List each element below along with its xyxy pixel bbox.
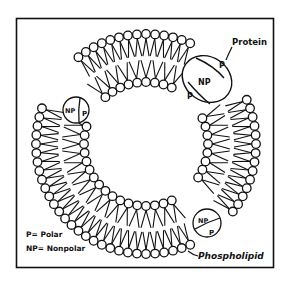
lipid-head-inner	[116, 83, 125, 92]
lipid-head-outer	[35, 167, 44, 176]
lipid-head-inner	[80, 131, 89, 140]
lipid-head-inner	[198, 114, 207, 123]
lipid-tail	[62, 151, 80, 153]
lipid-tail	[153, 210, 155, 228]
protein-region-polar: P	[219, 61, 225, 70]
lipid-tail	[234, 135, 251, 140]
lipid-head-outer	[248, 113, 257, 122]
liposome-diagram: P NP P NP P NP P Protein Phospholipid P=…	[0, 0, 290, 284]
lipid-tail	[155, 231, 157, 249]
lipid-head-outer	[142, 30, 151, 39]
lipid-head-inner	[194, 173, 203, 182]
lipid-tail	[157, 231, 163, 248]
lipid-head-inner	[201, 122, 210, 131]
lipid-tail	[212, 153, 229, 160]
protein-bottom-right: NP P	[193, 209, 221, 237]
lipid-head-outer	[89, 236, 98, 245]
lipid-tail	[62, 144, 80, 149]
lipid-tail	[233, 155, 250, 161]
lipid-tail	[212, 151, 230, 153]
lipid-tail	[118, 208, 128, 223]
lipid-head-inner	[133, 201, 142, 210]
lipid-tail	[146, 210, 151, 228]
lipid-tail	[165, 208, 175, 223]
lipid-tail	[233, 127, 250, 133]
lipid-head-outer	[151, 249, 160, 258]
lipid-tail	[222, 189, 239, 195]
lipid-tail	[234, 148, 251, 153]
lipid-head-outer	[251, 149, 260, 158]
lipid-head-outer	[33, 158, 42, 167]
lipid-tail	[210, 163, 225, 173]
lipid-head-inner	[201, 157, 210, 166]
lipid-tail	[155, 210, 162, 227]
lipid-head-outer	[124, 248, 133, 257]
lipid-head-outer	[186, 240, 195, 249]
lipid-head-outer	[32, 131, 41, 140]
lipid-head-outer	[115, 33, 124, 42]
lipid-tail	[41, 153, 59, 155]
lipid-head-outer	[248, 167, 257, 176]
lipid-head-outer	[242, 96, 251, 105]
protein-region-nonpolar: NP	[65, 107, 75, 115]
lipid-tail	[88, 219, 100, 232]
lipid-head-outer	[38, 104, 47, 113]
lipid-head-inner	[82, 122, 91, 131]
lipid-tail	[129, 231, 135, 248]
lipid-tail	[233, 134, 251, 136]
phospholipid-label: Phospholipid	[198, 251, 264, 261]
lipid-tail	[157, 40, 163, 57]
lipid-tail	[40, 144, 58, 147]
lipid-head-outer	[252, 140, 261, 149]
lipid-tail	[137, 39, 142, 56]
lipid-head-outer	[160, 31, 169, 40]
lipid-head-outer	[169, 33, 178, 42]
lipid-head-outer	[124, 31, 133, 40]
lipid-tail	[155, 39, 157, 57]
lipid-tail	[96, 51, 102, 68]
lipid-tail	[67, 163, 82, 173]
protein-left: NP P	[63, 97, 89, 123]
lipid-head-outer	[246, 175, 255, 184]
lipid-head-inner	[204, 140, 213, 149]
lipid-tail	[129, 62, 136, 79]
lipid-head-outer	[115, 246, 124, 255]
lipid-head-outer	[250, 158, 259, 167]
lipid-tail	[210, 116, 225, 126]
lipid-head-inner	[80, 149, 89, 158]
legend-nonpolar: NP= Nonpolar	[26, 244, 86, 253]
lipid-head-outer	[133, 30, 142, 39]
protein-region-nonpolar: NP	[198, 217, 208, 225]
lipid-tail	[234, 141, 252, 144]
lipid-head-outer	[251, 131, 260, 140]
lipid-head-outer	[160, 248, 169, 257]
protein-leader-line	[226, 47, 232, 60]
lipid-head-outer	[33, 122, 42, 131]
lipid-tail	[141, 210, 146, 228]
lipid-head-outer	[133, 249, 142, 258]
lipid-tail	[137, 232, 142, 249]
lipid-tail	[146, 232, 149, 250]
lipid-head-inner	[124, 199, 133, 208]
lipid-tail	[212, 135, 230, 137]
lipid-head-inner	[124, 80, 133, 89]
lipid-head-outer	[242, 184, 251, 193]
lipid-head-inner	[203, 131, 212, 140]
protein-region-polar: P	[82, 110, 87, 118]
lipid-head-inner	[142, 202, 151, 211]
lipid-head-outer	[45, 192, 54, 201]
lipid-head-outer	[106, 244, 115, 253]
lipid-tail	[40, 141, 58, 144]
legend-polar: P= Polar	[26, 230, 63, 239]
lipid-tail	[150, 39, 155, 56]
lipid-tail	[136, 39, 138, 57]
lipid-head-inner	[159, 199, 168, 208]
lipid-head-inner	[159, 80, 168, 89]
lipid-tail	[141, 60, 146, 78]
lipid-head-outer	[177, 36, 186, 45]
lipid-tail	[137, 60, 139, 78]
lipid-head-outer	[106, 36, 115, 45]
lipid-tail	[153, 60, 155, 78]
lipid-head-outer	[98, 39, 107, 48]
lipid-tail	[42, 155, 59, 161]
